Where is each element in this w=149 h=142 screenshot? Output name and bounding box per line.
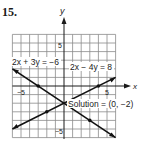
x-axis-arrow-icon <box>124 84 131 89</box>
point-marker <box>97 84 101 88</box>
tick-label-y-5: 5 <box>58 42 62 49</box>
eq1-label: 2x + 3y = −6 <box>12 57 59 67</box>
tick-label-x-neg5: −5 <box>17 89 25 96</box>
eq2-label: 2x − 4y = 8 <box>70 62 112 72</box>
tick-label-y-neg5: −5 <box>55 128 63 135</box>
coordinate-plane: 2x + 3y = −6 2x − 4y = 8 Solution = (0, … <box>0 0 149 142</box>
solution-label: Solution = (0, −2) <box>68 99 133 109</box>
arrow-icon <box>12 124 18 129</box>
tick-label-x-5: 5 <box>105 89 109 96</box>
y-axis-arrow-icon <box>62 17 67 24</box>
point-marker <box>45 110 49 114</box>
point-marker <box>88 119 92 123</box>
y-axis-label: y <box>59 6 65 16</box>
arrow-icon <box>110 77 116 82</box>
point-marker <box>36 84 40 88</box>
x-axis-label: x <box>132 82 138 91</box>
